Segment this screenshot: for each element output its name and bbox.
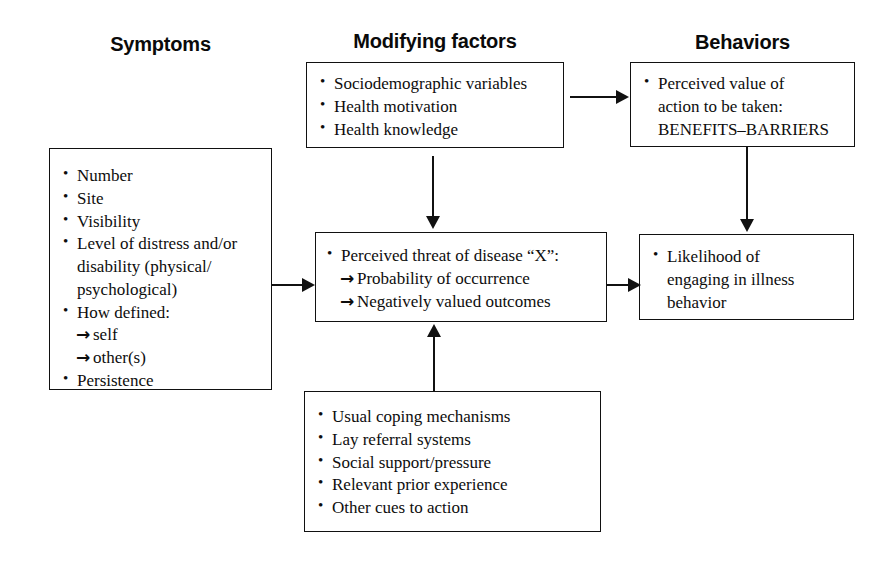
list-item: Likelihood of xyxy=(652,246,845,268)
connector-symptoms-to-threat-line xyxy=(272,284,304,286)
connector-cues-to-threat-arrowhead xyxy=(427,324,441,337)
list-item: Relevant prior experience xyxy=(317,474,592,496)
cues-box: Usual coping mechanismsLay referral syst… xyxy=(304,391,601,532)
column-title-symptoms: Symptoms xyxy=(49,33,272,56)
list-item: Visibility xyxy=(62,211,261,233)
connector-cues-to-threat-line xyxy=(433,334,435,392)
list-item: psychological) xyxy=(62,279,261,301)
likelihood-box: Likelihood ofengaging in illnessbehavior xyxy=(639,234,854,320)
list-item: Negatively valued outcomes xyxy=(326,291,600,313)
perceived-value-list: Perceived value ofaction to be taken:BEN… xyxy=(643,73,846,140)
list-item: Perceived value of xyxy=(643,73,846,95)
list-item: Site xyxy=(62,188,261,210)
list-item: Usual coping mechanisms xyxy=(317,406,592,428)
list-item: disability (physical/ xyxy=(62,256,261,278)
column-title-modifying-factors: Modifying factors xyxy=(306,30,564,53)
connector-behaviors-to-likelihood-line xyxy=(746,147,748,221)
list-item: Persistence xyxy=(62,370,261,392)
modifying-factors-list: Sociodemographic variablesHealth motivat… xyxy=(319,73,555,140)
list-item: Probability of occurrence xyxy=(326,268,600,290)
list-item: action to be taken: xyxy=(643,96,846,118)
list-item: Health knowledge xyxy=(319,119,555,141)
list-item: Number xyxy=(62,165,261,187)
list-item: Other cues to action xyxy=(317,497,592,519)
perceived-threat-box: Perceived threat of disease “X”:Probabil… xyxy=(315,232,607,322)
connector-modifying-to-threat-line xyxy=(432,156,434,218)
diagram-canvas: Symptoms Modifying factors Behaviors Num… xyxy=(0,0,896,565)
list-item: Sociodemographic variables xyxy=(319,73,555,95)
column-title-behaviors: Behaviors xyxy=(630,31,855,54)
symptoms-box: NumberSiteVisibilityLevel of distress an… xyxy=(49,148,272,390)
perceived-threat-list: Perceived threat of disease “X”:Probabil… xyxy=(326,245,600,312)
connector-modifying-to-threat-arrowhead xyxy=(426,216,440,229)
symptoms-list: NumberSiteVisibilityLevel of distress an… xyxy=(62,165,261,392)
list-item: BENEFITS–BARRIERS xyxy=(643,119,846,141)
list-item: behavior xyxy=(652,292,845,314)
connector-symptoms-to-threat-arrowhead xyxy=(302,278,315,292)
list-item: Health motivation xyxy=(319,96,555,118)
list-item: How defined: xyxy=(62,302,261,324)
likelihood-list: Likelihood ofengaging in illnessbehavior xyxy=(652,246,845,313)
connector-threat-to-likelihood-arrowhead xyxy=(628,278,641,292)
perceived-value-box: Perceived value ofaction to be taken:BEN… xyxy=(630,62,855,147)
connector-modifying-to-behaviors-arrowhead xyxy=(616,90,629,104)
list-item: engaging in illness xyxy=(652,269,845,291)
list-item: other(s) xyxy=(62,347,261,369)
connector-behaviors-to-likelihood-arrowhead xyxy=(740,219,754,232)
list-item: Social support/pressure xyxy=(317,452,592,474)
list-item: Level of distress and/or xyxy=(62,233,261,255)
list-item: self xyxy=(62,324,261,346)
cues-list: Usual coping mechanismsLay referral syst… xyxy=(317,406,592,519)
connector-modifying-to-behaviors-line xyxy=(570,96,618,98)
modifying-factors-box: Sociodemographic variablesHealth motivat… xyxy=(306,62,564,148)
list-item: Lay referral systems xyxy=(317,429,592,451)
list-item: Perceived threat of disease “X”: xyxy=(326,245,600,267)
